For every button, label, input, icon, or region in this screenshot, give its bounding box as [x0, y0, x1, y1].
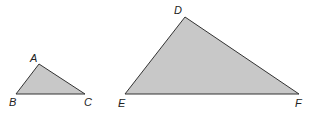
vertex-label-f: F [295, 97, 303, 109]
vertex-label-a: A [29, 52, 37, 64]
vertex-label-c: C [84, 96, 92, 108]
triangle-abc [16, 64, 85, 94]
vertex-label-d: D [174, 4, 182, 16]
vertex-label-e: E [118, 97, 126, 109]
similar-triangles-diagram: A B C D E F [0, 0, 309, 120]
vertex-label-b: B [9, 96, 16, 108]
triangle-def [125, 17, 299, 94]
